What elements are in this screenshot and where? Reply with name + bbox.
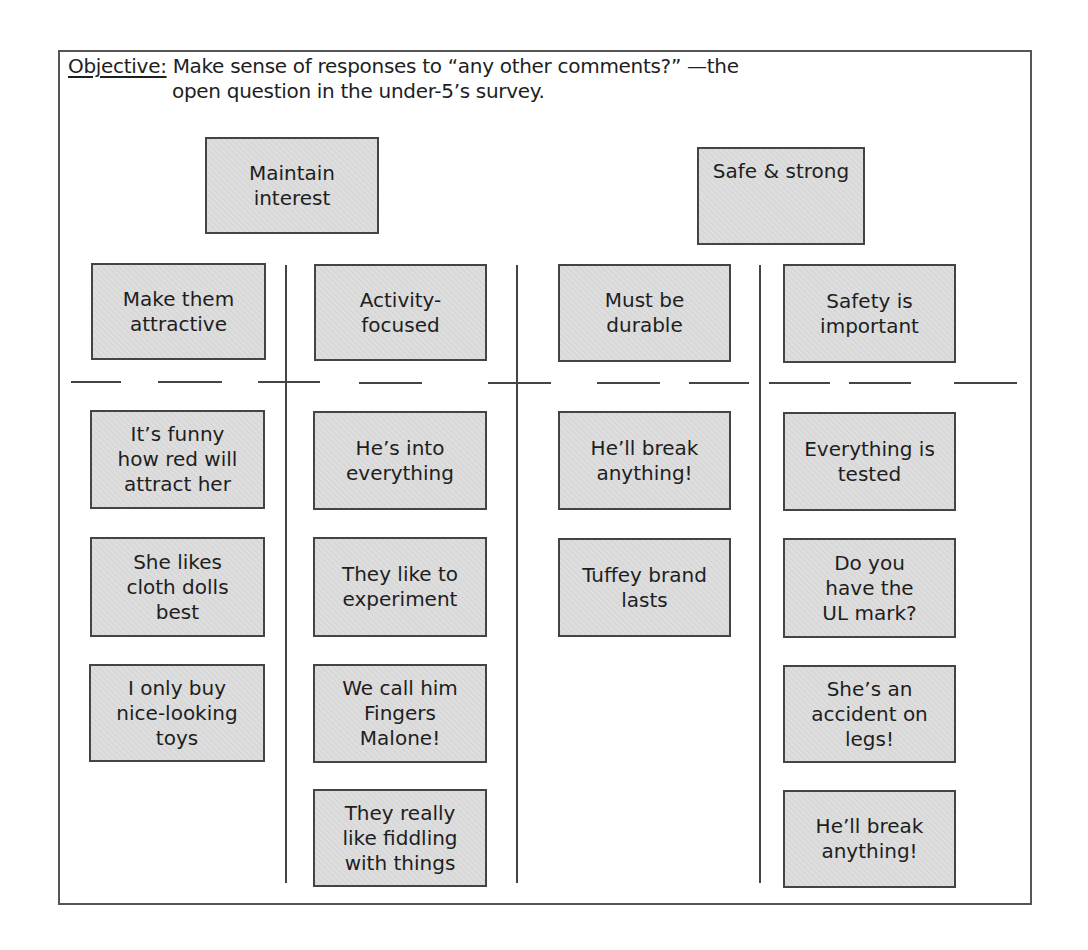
response-card[interactable]: Tuffey brand lasts xyxy=(558,538,731,637)
objective-line-2: open question in the under-5’s survey. xyxy=(68,79,968,104)
objective-statement: Objective: Make sense of responses to “a… xyxy=(68,54,968,104)
column-divider xyxy=(516,265,518,883)
group-title: Safe & strong xyxy=(713,159,849,184)
objective-line-1: Make sense of responses to “any other co… xyxy=(173,54,739,78)
response-card[interactable]: It’s funny how red will attract her xyxy=(90,410,265,509)
response-card[interactable]: We call him Fingers Malone! xyxy=(313,664,487,763)
response-card[interactable]: They really like fiddling with things xyxy=(313,789,487,887)
objective-label: Objective: xyxy=(68,54,167,78)
column-header-must-be-durable[interactable]: Must be durable xyxy=(558,264,731,362)
column-divider xyxy=(285,265,287,883)
group-card-safe-strong[interactable]: Safe & strong xyxy=(697,147,865,245)
response-card[interactable]: They like to experiment xyxy=(313,537,487,637)
group-title: Maintain interest xyxy=(247,161,337,211)
response-card[interactable]: She likes cloth dolls best xyxy=(90,537,265,637)
column-header-safety-is-important[interactable]: Safety is important xyxy=(783,264,956,363)
response-card[interactable]: He’ll break anything! xyxy=(558,411,731,510)
response-card[interactable]: She’s an accident on legs! xyxy=(783,665,956,763)
column-divider xyxy=(759,265,761,883)
response-card[interactable]: Do you have the UL mark? xyxy=(783,538,956,638)
response-card[interactable]: I only buy nice-looking toys xyxy=(89,664,265,762)
response-card[interactable]: He’s into everything xyxy=(313,411,487,510)
response-card[interactable]: Everything is tested xyxy=(783,412,956,511)
response-card[interactable]: He’ll break anything! xyxy=(783,790,956,888)
group-card-maintain-interest[interactable]: Maintain interest xyxy=(205,137,379,234)
column-header-make-them-attractive[interactable]: Make them attractive xyxy=(91,263,266,360)
column-header-activity-focused[interactable]: Activity-focused xyxy=(314,264,487,361)
